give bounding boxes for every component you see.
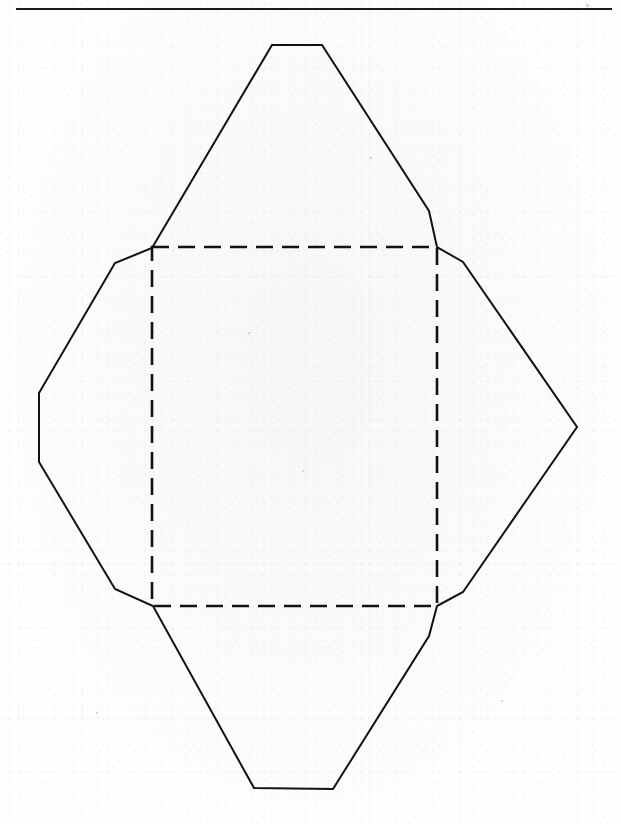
box-net-figure — [0, 0, 621, 824]
fold-square-dashed — [152, 247, 437, 606]
document-page — [0, 0, 621, 824]
net-outline-polygon — [39, 45, 577, 789]
